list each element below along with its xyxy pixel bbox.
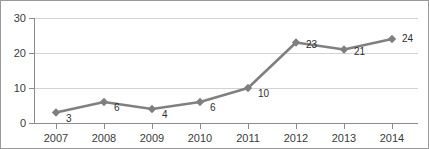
data-point-2013 bbox=[340, 45, 348, 53]
point-label-2014: 24 bbox=[402, 34, 413, 44]
data-point-2007 bbox=[52, 108, 60, 116]
point-label-2010: 6 bbox=[210, 103, 216, 113]
series-markers bbox=[52, 35, 396, 117]
point-label-2009: 4 bbox=[162, 110, 168, 120]
data-point-2010 bbox=[196, 98, 204, 106]
point-label-2007: 3 bbox=[66, 114, 72, 124]
point-label-2013: 21 bbox=[354, 47, 365, 57]
data-point-2014 bbox=[388, 35, 396, 43]
data-point-2008 bbox=[100, 98, 108, 106]
series-plot bbox=[1, 1, 429, 149]
point-label-2011: 10 bbox=[258, 89, 269, 99]
line-chart-figure: 30 20 10 0 2007 2008 2009 2010 2011 2012… bbox=[0, 0, 429, 149]
data-point-2009 bbox=[148, 105, 156, 113]
point-label-2008: 6 bbox=[114, 103, 120, 113]
point-label-2012: 23 bbox=[306, 40, 317, 50]
